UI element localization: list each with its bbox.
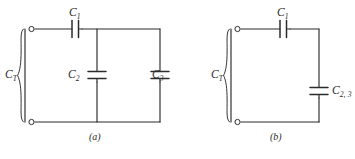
- terminal-bottom-a: [29, 119, 34, 124]
- label-total-capacitance-a: CT: [5, 69, 17, 83]
- label-total-base-a: C: [5, 68, 13, 80]
- label-c1-b: C1: [277, 7, 289, 21]
- panel-b: CT C1 C2, 3 (b): [178, 0, 355, 159]
- panel-a-caption: (a): [89, 132, 101, 142]
- label-c1-base-b: C: [277, 6, 285, 18]
- label-c3-sub-a: 3: [160, 74, 164, 83]
- label-c23-sub-b: 2, 3: [340, 90, 352, 99]
- panel-b-circuit-drawing: [178, 0, 355, 159]
- label-c1-sub-b: 1: [285, 12, 289, 21]
- label-c2-sub-a: 2: [76, 74, 80, 83]
- panel-b-caption: (b): [270, 132, 282, 142]
- terminal-bottom-b: [235, 119, 240, 124]
- label-total-base-b: C: [211, 68, 219, 80]
- label-total-sub-a: T: [13, 74, 17, 83]
- label-c1-base-a: C: [69, 6, 77, 18]
- label-c2-a: C2: [68, 69, 80, 83]
- label-c1-a: C1: [69, 7, 81, 21]
- label-c2-base-a: C: [68, 68, 76, 80]
- label-c1-sub-a: 1: [77, 12, 81, 21]
- label-c3-base-a: C: [152, 68, 160, 80]
- label-c23-base-b: C: [332, 84, 340, 96]
- terminal-top-a: [29, 26, 34, 31]
- total-capacitance-brace-b: [224, 29, 230, 122]
- label-total-capacitance-b: CT: [211, 69, 223, 83]
- circuit-figure: CT C1 C2 C3 (a): [0, 0, 355, 159]
- label-total-sub-b: T: [219, 74, 223, 83]
- label-c3-a: C3: [152, 69, 164, 83]
- panel-a: CT C1 C2 C3 (a): [0, 0, 178, 159]
- label-c23-b: C2, 3: [332, 85, 352, 99]
- total-capacitance-brace-a: [18, 29, 24, 122]
- terminal-top-b: [235, 26, 240, 31]
